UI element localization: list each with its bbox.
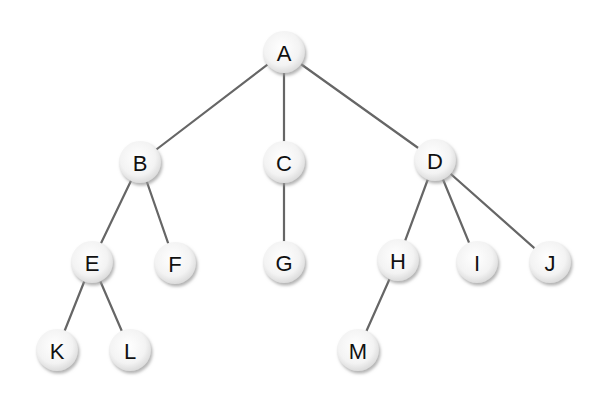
node-label: M bbox=[349, 339, 367, 364]
tree-node-g: G bbox=[263, 241, 305, 283]
edge-a-d bbox=[284, 52, 435, 160]
tree-node-i: I bbox=[456, 241, 498, 283]
node-label: G bbox=[275, 251, 292, 276]
tree-node-c: C bbox=[263, 141, 305, 183]
node-label: B bbox=[133, 151, 148, 176]
node-label: F bbox=[168, 252, 181, 277]
tree-node-d: D bbox=[414, 139, 456, 181]
node-label: K bbox=[50, 339, 65, 364]
edge-a-b bbox=[140, 52, 284, 162]
node-label: C bbox=[276, 151, 292, 176]
node-label: J bbox=[545, 251, 556, 276]
tree-node-m: M bbox=[337, 329, 379, 371]
tree-node-j: J bbox=[529, 241, 571, 283]
edges-layer bbox=[57, 52, 550, 350]
tree-node-e: E bbox=[71, 241, 113, 283]
node-label: A bbox=[277, 41, 292, 66]
node-label: E bbox=[85, 251, 100, 276]
edge-d-j bbox=[435, 160, 550, 262]
tree-node-h: H bbox=[377, 239, 419, 281]
tree-node-b: B bbox=[119, 141, 161, 183]
node-label: H bbox=[390, 249, 406, 274]
tree-node-l: L bbox=[109, 329, 151, 371]
node-label: D bbox=[427, 149, 443, 174]
node-label: L bbox=[124, 339, 136, 364]
tree-node-a: A bbox=[263, 31, 305, 73]
node-label: I bbox=[474, 251, 480, 276]
tree-diagram: ABCDEFGHIJKLM bbox=[0, 0, 606, 395]
tree-node-k: K bbox=[36, 329, 78, 371]
tree-node-f: F bbox=[154, 242, 196, 284]
